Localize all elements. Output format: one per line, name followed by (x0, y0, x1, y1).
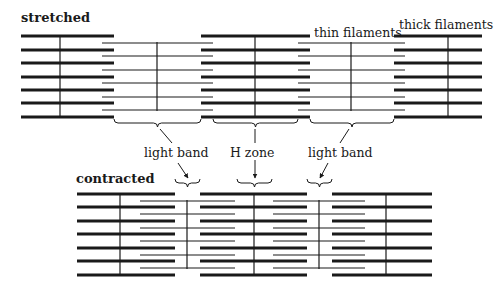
light-band-left-pointer-down (178, 163, 188, 178)
light-band-left-label: light band (144, 147, 209, 160)
stretched-label: stretched (21, 11, 90, 24)
h-zone-label: H zone (230, 147, 274, 160)
light-band-left-brace (114, 119, 201, 127)
light-band-right-label: light band (308, 147, 373, 160)
contracted-label: contracted (76, 172, 155, 185)
h-zone-brace (237, 179, 272, 187)
light-band-right-pointer-down (320, 163, 328, 178)
stretched-sarcomere (21, 36, 482, 127)
light-band-right-pointer-up (340, 129, 349, 143)
light-band-right-brace (307, 179, 332, 187)
light-band-left-pointer-up (160, 129, 172, 143)
thin-filaments-label: thin filaments (314, 27, 402, 40)
thick-filaments-label: thick filaments (399, 19, 493, 32)
light-band-right-brace (310, 119, 394, 127)
h-zone-brace (213, 119, 298, 127)
light-band-left-brace (175, 179, 200, 187)
contracted-sarcomere (77, 179, 432, 275)
